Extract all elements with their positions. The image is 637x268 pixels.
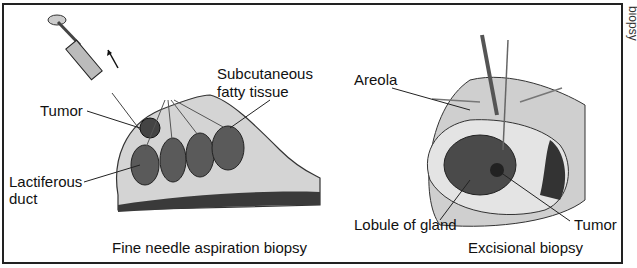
breast-cross-section xyxy=(117,95,320,212)
label-tumor-right: Tumor xyxy=(574,217,617,233)
label-lactiferous: Lactiferous xyxy=(9,174,82,190)
illustration xyxy=(0,0,637,268)
excisional-view xyxy=(427,35,585,226)
label-subcutaneous: Subcutaneous xyxy=(217,66,313,82)
label-duct: duct xyxy=(9,191,37,207)
caption-excisional: Excisional biopsy xyxy=(468,239,583,256)
label-tumor-left: Tumor xyxy=(40,103,83,119)
label-fatty-tissue: fatty tissue xyxy=(217,84,289,100)
caption-fine-needle: Fine needle aspiration biopsy xyxy=(112,239,307,256)
label-lobule: Lobule of gland xyxy=(354,217,457,233)
label-areola: Areola xyxy=(354,72,397,88)
